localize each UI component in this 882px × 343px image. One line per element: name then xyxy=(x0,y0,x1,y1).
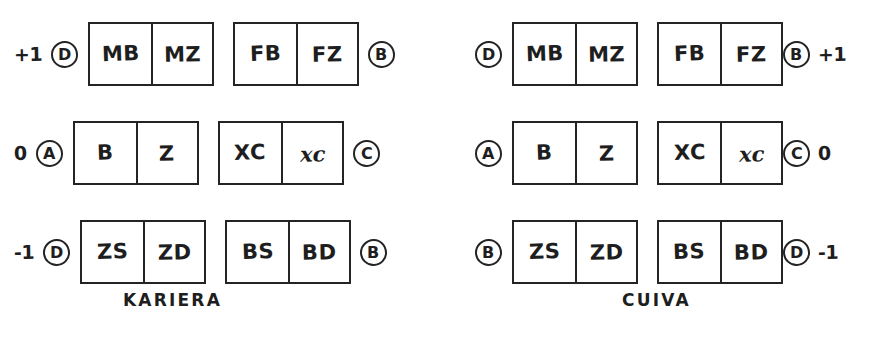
section-circle-right-letter: C xyxy=(360,145,372,161)
kin-box-pair-1: B Z xyxy=(73,121,199,185)
generation-label: -1 xyxy=(14,242,34,261)
kin-term-cell: xc xyxy=(281,123,342,183)
kin-term-cell: MZ xyxy=(575,24,636,84)
cuiva-row-generation-minus1: B ZS ZD BS BD D -1 xyxy=(441,216,882,288)
kinship-diagram-sheet: +1 D MB MZ FB FZ B xyxy=(0,0,882,343)
section-circle-right-letter: D xyxy=(790,244,803,260)
section-circle-left-letter: D xyxy=(50,244,63,260)
kin-term-cell: ZS xyxy=(514,222,575,282)
kin-term-cell: B xyxy=(75,123,136,183)
kin-term-cell: BD xyxy=(720,222,781,282)
kin-term-cell: FB xyxy=(235,24,296,84)
diagram-caption-cuiva: CUIVA xyxy=(436,292,877,309)
kariera-row-generation-0: 0 A B Z XC xc C xyxy=(0,117,455,189)
kin-term-cell: FZ xyxy=(296,24,357,84)
kin-term-cell: MB xyxy=(514,24,575,84)
kin-term-cell: xc xyxy=(720,123,781,183)
section-circle-left-letter: D xyxy=(58,46,71,62)
section-circle-right: B xyxy=(360,238,388,266)
section-circle-left-letter: A xyxy=(482,145,494,161)
kin-box-pair-2: XC xc xyxy=(657,121,783,185)
kin-term-cell: ZD xyxy=(143,222,204,282)
kin-box-pair-2: XC xc xyxy=(218,121,344,185)
kin-box-pair-1: ZS ZD xyxy=(80,220,206,284)
section-circle-right-letter: B xyxy=(790,46,802,62)
kin-box-pair-2: BS BD xyxy=(657,220,783,284)
section-circle-right: B xyxy=(783,40,811,68)
kin-term-cell: BS xyxy=(227,222,288,282)
generation-label: +1 xyxy=(14,44,42,63)
kin-term-cell: BD xyxy=(288,222,349,282)
kin-term-cell: BS xyxy=(659,222,720,282)
kin-box-pair-1: B Z xyxy=(512,121,638,185)
generation-label: +1 xyxy=(818,44,846,63)
section-circle-right-letter: B xyxy=(368,244,380,260)
kin-term-cell: B xyxy=(514,123,575,183)
section-circle-left-letter: A xyxy=(43,145,55,161)
kin-term-cell: MB xyxy=(90,24,151,84)
kin-term-cell: FB xyxy=(659,24,720,84)
cuiva-row-generation-plus1: D MB MZ FB FZ B +1 xyxy=(441,18,882,90)
section-circle-left: A xyxy=(475,139,503,167)
section-circle-left-letter: B xyxy=(482,244,494,260)
kin-term-cell: ZD xyxy=(575,222,636,282)
kin-term-cell: FZ xyxy=(720,24,781,84)
kariera-row-generation-plus1: +1 D MB MZ FB FZ B xyxy=(0,18,455,90)
kin-term-cell: MZ xyxy=(151,24,212,84)
kin-box-pair-1: ZS ZD xyxy=(512,220,638,284)
kin-box-pair-2: FB FZ xyxy=(657,22,783,86)
diagram-cuiva: D MB MZ FB FZ B +1 xyxy=(441,0,882,343)
kin-term-cell: Z xyxy=(136,123,197,183)
cuiva-row-generation-0: A B Z XC xc C 0 xyxy=(441,117,882,189)
kin-term-cell: XC xyxy=(220,123,281,183)
section-circle-right: C xyxy=(783,139,811,167)
section-circle-right: C xyxy=(352,139,380,167)
kin-box-pair-1: MB MZ xyxy=(512,22,638,86)
section-circle-right-letter: C xyxy=(791,145,803,161)
kin-term-cell: Z xyxy=(575,123,636,183)
section-circle-right: D xyxy=(783,238,811,266)
diagram-kariera: +1 D MB MZ FB FZ B xyxy=(0,0,441,343)
kin-term-cell: ZS xyxy=(82,222,143,282)
diagram-caption-kariera: KARIERA xyxy=(0,292,393,309)
section-circle-left: D xyxy=(475,40,503,68)
kin-box-pair-2: FB FZ xyxy=(233,22,359,86)
generation-label: 0 xyxy=(818,143,831,162)
generation-label: -1 xyxy=(818,242,838,261)
kin-box-pair-1: MB MZ xyxy=(88,22,214,86)
kariera-row-generation-minus1: -1 D ZS ZD BS BD B xyxy=(0,216,455,288)
section-circle-left: D xyxy=(43,238,71,266)
section-circle-right-letter: B xyxy=(376,46,388,62)
section-circle-left: D xyxy=(51,40,79,68)
section-circle-left-letter: D xyxy=(482,46,495,62)
generation-label: 0 xyxy=(14,143,27,162)
kin-term-cell: XC xyxy=(659,123,720,183)
section-circle-left: A xyxy=(35,139,63,167)
kin-box-pair-2: BS BD xyxy=(225,220,351,284)
section-circle-right: B xyxy=(368,40,396,68)
section-circle-left: B xyxy=(475,238,503,266)
